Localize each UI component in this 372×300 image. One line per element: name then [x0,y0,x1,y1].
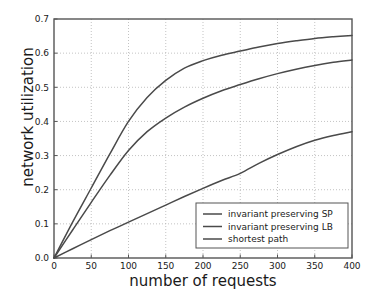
x-tick-label: 50 [86,261,98,271]
x-tick-label: 300 [269,261,286,271]
x-tick-label: 200 [194,261,211,271]
x-tick-label: 150 [157,261,174,271]
x-tick-label: 350 [306,261,323,271]
legend: invariant preserving SPinvariant preserv… [196,203,348,248]
y-tick-label: 0.0 [35,253,50,263]
y-axis-title: network utilization [19,17,37,217]
x-tick-label: 100 [120,261,137,271]
legend-label-0: invariant preserving SP [228,209,333,219]
x-tick-label: 0 [51,261,57,271]
x-axis-title: number of requests [54,272,352,290]
figure: 0501001502002503003504000.00.10.20.30.40… [0,0,372,300]
x-tick-label: 250 [232,261,249,271]
x-tick-label: 400 [343,261,360,271]
legend-label-2: shortest path [228,234,288,244]
y-tick-label: 0.1 [35,219,49,229]
chart-canvas: 0501001502002503003504000.00.10.20.30.40… [0,0,372,300]
legend-label-1: invariant preserving LB [228,222,333,232]
